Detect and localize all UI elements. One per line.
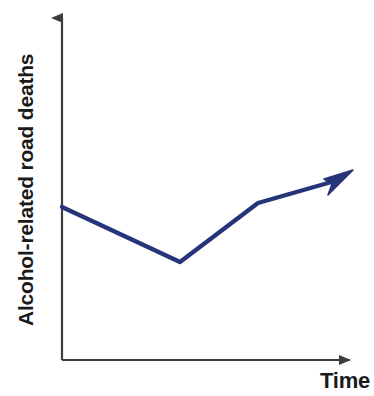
chart-plot-area (0, 0, 374, 396)
x-axis-label: Time (320, 368, 370, 394)
chart-figure: Alcohol-related road deaths Time (0, 0, 374, 396)
data-series-alcohol-related-road-deaths (62, 170, 353, 262)
trend-line (62, 181, 335, 262)
trend-line-arrowhead-icon (324, 170, 353, 195)
y-axis-label: Alcohol-related road deaths (9, 0, 43, 326)
